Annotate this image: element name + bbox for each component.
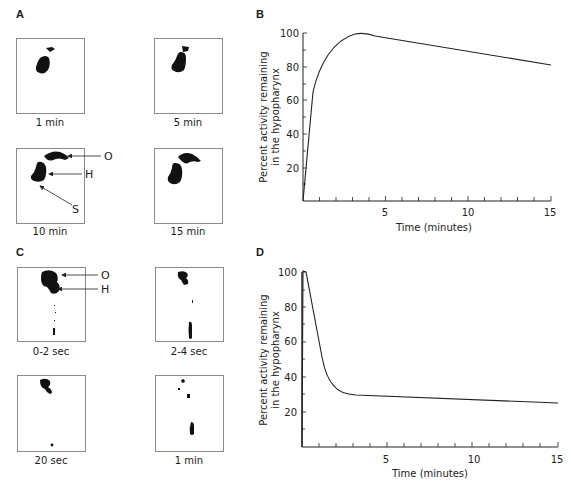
- svg-text:80: 80: [286, 62, 299, 73]
- svg-text:10: 10: [462, 207, 475, 218]
- svg-text:40: 40: [286, 129, 299, 140]
- chart-b-line: [303, 33, 551, 201]
- chart-d-ylabel-line1: Percent activity remaining: [258, 294, 269, 425]
- svg-text:40: 40: [284, 372, 297, 383]
- svg-text:20: 20: [286, 163, 299, 174]
- svg-text:100: 100: [280, 28, 299, 39]
- svg-text:20: 20: [284, 407, 297, 418]
- svg-text:60: 60: [286, 95, 299, 106]
- svg-text:5: 5: [382, 207, 388, 218]
- svg-text:15: 15: [544, 207, 557, 218]
- svg-text:60: 60: [284, 336, 297, 347]
- arrow-s-a: [40, 186, 72, 205]
- svg-text:100: 100: [278, 267, 297, 278]
- chart-b-ylabel-line1: Percent activity remaining: [258, 51, 269, 182]
- chart-d-xlabel: Time (minutes): [391, 468, 468, 479]
- chart-b-ylabel-line2: in the hypopharynx: [270, 68, 281, 166]
- svg-text:15: 15: [551, 454, 564, 465]
- chart-d-line: [302, 271, 558, 447]
- chart-d: 100 80 60 40 20 5 10 15 Time (minutes) P…: [258, 267, 563, 479]
- scan-blobs-c: [40, 270, 194, 446]
- chart-b-xticks: [320, 196, 552, 201]
- svg-text:80: 80: [284, 302, 297, 313]
- label-s-a: S: [72, 203, 79, 216]
- label-o-c: O: [101, 269, 110, 282]
- svg-text:5: 5: [383, 454, 389, 465]
- figure-canvas: O H S O H: [0, 0, 571, 489]
- label-o-a: O: [104, 150, 113, 163]
- svg-text:10: 10: [468, 454, 481, 465]
- label-h-a: H: [85, 168, 93, 181]
- chart-b-xlabel: Time (minutes): [395, 222, 472, 233]
- scan-blobs-a: [31, 46, 201, 184]
- chart-d-xticks: [319, 442, 558, 447]
- chart-d-ylabel-line2: in the hypopharynx: [270, 311, 281, 409]
- label-h-c: H: [101, 283, 109, 296]
- chart-b: 100 80 60 40 20 5 10 15 Time (minutes) P…: [258, 28, 556, 233]
